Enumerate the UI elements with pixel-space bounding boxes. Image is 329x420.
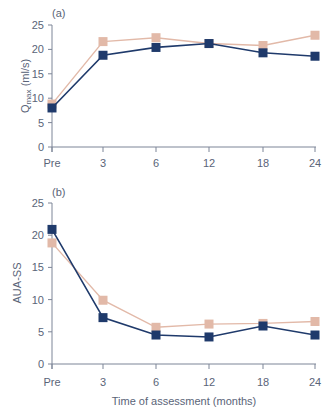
data-point-marker <box>311 331 320 340</box>
panel-a-series <box>48 31 320 113</box>
data-point-marker <box>99 37 108 46</box>
y-tick-label: 20 <box>32 229 44 241</box>
y-tick-label: 25 <box>32 197 44 209</box>
line-chart-figure: (a) Qmax (ml/s) 0510152025Pre36121824 (b… <box>0 0 329 420</box>
x-tick-label: 24 <box>309 376 321 388</box>
data-point-marker <box>152 323 161 332</box>
series-line <box>52 229 315 337</box>
x-tick-label: Pre <box>43 376 60 388</box>
x-tick-label: 6 <box>153 157 159 169</box>
y-tick-label: 5 <box>38 326 44 338</box>
y-tick-label: 15 <box>32 261 44 273</box>
x-tick-label: Pre <box>43 157 60 169</box>
data-point-marker <box>259 322 268 331</box>
panel-b-axes: 0510152025Pre36121824 <box>32 197 321 388</box>
y-tick-label: 10 <box>32 294 44 306</box>
x-tick-label: 3 <box>100 376 106 388</box>
data-point-marker <box>311 52 320 61</box>
panel-b-label: (b) <box>52 186 65 198</box>
y-tick-label: 0 <box>38 141 44 153</box>
x-tick-label: 6 <box>153 376 159 388</box>
data-point-marker <box>311 317 320 326</box>
data-point-marker <box>259 48 268 57</box>
y-tick-label: 15 <box>32 68 44 80</box>
data-point-marker <box>311 31 320 40</box>
data-point-marker <box>99 51 108 60</box>
panel-b-series <box>48 225 320 342</box>
x-tick-label: 12 <box>203 376 215 388</box>
series-line <box>52 44 315 109</box>
data-point-marker <box>99 296 108 305</box>
data-point-marker <box>48 103 57 112</box>
panel-b-y-axis-title: AUA-SS <box>11 263 23 304</box>
y-tick-label: 20 <box>32 43 44 55</box>
x-tick-label: 24 <box>309 157 321 169</box>
data-point-marker <box>99 313 108 322</box>
data-point-marker <box>205 320 214 329</box>
data-point-marker <box>205 332 214 341</box>
x-tick-label: 18 <box>257 376 269 388</box>
data-point-marker <box>48 225 57 234</box>
data-point-marker <box>48 238 57 247</box>
data-point-marker <box>152 43 161 52</box>
panel-b-aua-ss-chart: (b) AUA-SS Time of assessment (months) 0… <box>11 186 321 407</box>
x-tick-label: 18 <box>257 157 269 169</box>
x-tick-label: 3 <box>100 157 106 169</box>
panel-b-x-axis-title: Time of assessment (months) <box>112 395 256 407</box>
y-tick-label: 0 <box>38 358 44 370</box>
panel-a-axes: 0510152025Pre36121824 <box>32 19 321 169</box>
data-point-marker <box>152 331 161 340</box>
x-tick-label: 12 <box>203 157 215 169</box>
data-point-marker <box>205 39 214 48</box>
panel-a-label: (a) <box>52 7 65 19</box>
panel-a-qmax-chart: (a) Qmax (ml/s) 0510152025Pre36121824 <box>19 7 321 169</box>
series-line <box>52 243 315 327</box>
data-point-marker <box>152 33 161 42</box>
y-tick-label: 10 <box>32 92 44 104</box>
y-tick-label: 5 <box>38 117 44 129</box>
y-tick-label: 25 <box>32 19 44 31</box>
